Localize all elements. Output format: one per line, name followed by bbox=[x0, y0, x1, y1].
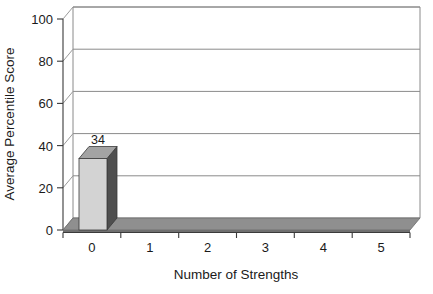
depth-line-80 bbox=[63, 49, 73, 61]
back-wall bbox=[73, 7, 420, 218]
bar-chart-figure: 100 80 60 40 20 0 0 1 2 3 4 5 34 Number … bbox=[0, 0, 433, 294]
y-tick-label-0: 0 bbox=[46, 223, 53, 238]
plot-area bbox=[73, 7, 420, 218]
x-axis-ticks bbox=[63, 233, 410, 239]
bar-front-face bbox=[79, 159, 107, 231]
x-tick-label-1: 1 bbox=[146, 240, 153, 255]
depth-line-40 bbox=[63, 134, 73, 146]
y-axis-ticks bbox=[57, 19, 63, 230]
x-tick-label-5: 5 bbox=[377, 240, 384, 255]
bar-group-0[interactable] bbox=[79, 147, 117, 231]
y-axis-title: Average Percentile Score bbox=[2, 48, 17, 201]
y-tick-label-100: 100 bbox=[31, 12, 53, 27]
depth-line-60 bbox=[63, 91, 73, 103]
depth-connectors bbox=[63, 7, 73, 230]
x-axis-title: Number of Strengths bbox=[174, 267, 299, 282]
y-tick-label-60: 60 bbox=[39, 96, 53, 111]
x-tick-label-4: 4 bbox=[320, 240, 327, 255]
floor-plane bbox=[63, 218, 420, 233]
floor-top-face bbox=[63, 218, 420, 230]
chart-container: 100 80 60 40 20 0 0 1 2 3 4 5 34 Number … bbox=[0, 0, 433, 294]
depth-line-20 bbox=[63, 176, 73, 188]
bar-value-label-0: 34 bbox=[91, 133, 105, 147]
y-tick-label-40: 40 bbox=[39, 139, 53, 154]
x-tick-label-3: 3 bbox=[262, 240, 269, 255]
x-tick-label-0: 0 bbox=[88, 240, 95, 255]
x-tick-label-2: 2 bbox=[204, 240, 211, 255]
y-tick-label-80: 80 bbox=[39, 54, 53, 69]
y-tick-label-20: 20 bbox=[39, 181, 53, 196]
bar-side-face bbox=[107, 147, 117, 231]
y-axis-tick-labels: 100 80 60 40 20 0 bbox=[31, 12, 53, 238]
depth-line-100 bbox=[63, 7, 73, 19]
x-axis-tick-labels: 0 1 2 3 4 5 bbox=[88, 240, 384, 255]
